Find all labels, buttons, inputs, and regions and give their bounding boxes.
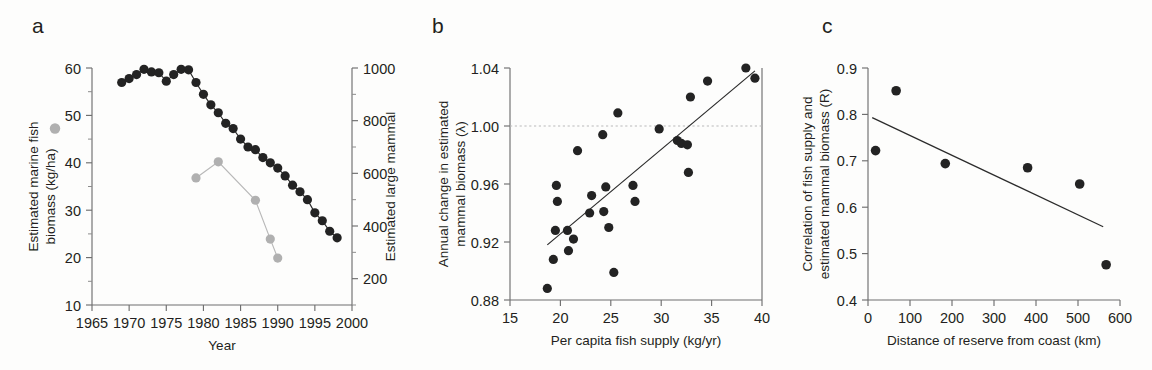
panel-a-chart: 1020304050602004006008001000196519701975… — [0, 0, 400, 370]
panel-b-chart: 0.880.920.961.001.04152025303540Per capi… — [400, 0, 790, 370]
panel-a-xtick-label: 1985 — [224, 315, 256, 331]
panel-a-data-point-large-mammal — [273, 163, 282, 172]
panel-a-xtick-label: 1980 — [187, 315, 219, 331]
panel-a-ytick-label-right: 1000 — [363, 61, 395, 77]
panel-a-data-point-marine-fish — [191, 173, 200, 182]
panel-b-xtick-label: 30 — [653, 310, 669, 326]
panel-a-xtick-label: 1965 — [76, 315, 108, 331]
panel-a-xtick-label: 1970 — [113, 315, 145, 331]
panel-c-xtick-label: 300 — [982, 310, 1006, 326]
panel-a-data-point-large-mammal — [333, 233, 342, 242]
panel-c-ytick-label: 0.5 — [837, 246, 857, 262]
panel-b-data-point — [564, 246, 573, 255]
panel-a-data-point-large-mammal — [310, 208, 319, 217]
panel-a-series-line-marine-fish — [196, 162, 278, 258]
panel-a-data-point-large-mammal — [266, 158, 275, 167]
panel-a-data-point-marine-fish — [266, 235, 275, 244]
panel-a-x-axis-title: Year — [208, 338, 236, 353]
panel-a: a 10203040506020040060080010001965197019… — [0, 0, 400, 370]
panel-b-data-point — [599, 207, 608, 216]
panel-c-xtick-label: 600 — [1108, 310, 1132, 326]
panel-b-data-point — [551, 226, 560, 235]
panel-a-ytick-label-right: 200 — [363, 271, 387, 287]
panel-c-xtick-label: 200 — [940, 310, 964, 326]
panel-a-data-point-large-mammal — [154, 68, 163, 77]
panel-a-data-point-marine-fish — [273, 253, 282, 262]
panel-b-data-point — [569, 235, 578, 244]
panel-c-y-axis-title-line1: Correlation of fish supply and — [800, 97, 815, 272]
panel-c-ytick-label: 0.7 — [837, 153, 857, 169]
panel-a-xtick-label: 1990 — [262, 315, 294, 331]
panel-c-data-point — [891, 86, 901, 96]
panel-a-data-point-large-mammal — [214, 108, 223, 117]
panel-c-ytick-label: 0.4 — [837, 293, 857, 309]
panel-c-data-point — [1023, 163, 1033, 173]
panel-b-xtick-label: 40 — [754, 310, 770, 326]
panel-b-regression-line — [547, 71, 755, 245]
panel-a-data-point-large-mammal — [162, 77, 171, 86]
panel-b-data-point — [686, 92, 695, 101]
panel-letter-b: b — [432, 14, 444, 38]
panel-b-data-point — [543, 284, 552, 293]
panel-a-data-point-large-mammal — [251, 145, 260, 154]
panel-b-xtick-label: 35 — [704, 310, 720, 326]
panel-b: b 0.880.920.961.001.04152025303540Per ca… — [400, 0, 790, 370]
panel-b-x-axis-title: Per capita fish supply (kg/yr) — [551, 333, 721, 348]
panel-a-data-point-marine-fish — [251, 196, 260, 205]
panel-b-data-point — [683, 140, 692, 149]
panel-a-ytick-label-left: 30 — [65, 203, 81, 219]
panel-b-data-point — [549, 255, 558, 264]
panel-a-data-point-large-mammal — [258, 153, 267, 162]
panel-c-x-axis-title: Distance of reserve from coast (km) — [887, 333, 1101, 348]
panel-b-y-axis-title-line1: Annual change in estimated — [436, 101, 451, 268]
panel-a-ytick-label-left: 10 — [65, 298, 81, 314]
panel-a-xtick-label: 1995 — [299, 315, 331, 331]
panel-c-ytick-label: 0.9 — [837, 61, 857, 77]
panel-b-data-point — [684, 168, 693, 177]
panel-c-xtick-label: 400 — [1024, 310, 1048, 326]
panel-b-ytick-label: 1.04 — [471, 61, 499, 77]
panel-c: c 0.40.50.60.70.80.90100200300400500600D… — [790, 0, 1152, 370]
panel-a-ytick-label-left: 50 — [65, 108, 81, 124]
panel-a-data-point-large-mammal — [199, 90, 208, 99]
panel-letter-c: c — [822, 14, 833, 38]
panel-c-data-point — [940, 159, 950, 169]
panel-c-xtick-label: 500 — [1066, 310, 1090, 326]
panel-b-ytick-label: 1.00 — [471, 119, 499, 135]
panel-b-data-point — [613, 108, 622, 117]
panel-b-xtick-label: 20 — [552, 310, 568, 326]
panel-b-data-point — [587, 191, 596, 200]
panel-a-ytick-label-left: 60 — [65, 61, 81, 77]
figure-root: a 10203040506020040060080010001965197019… — [0, 0, 1152, 370]
panel-letter-a: a — [32, 14, 44, 38]
panel-a-y-axis-title-left-line1: Estimated marine fish — [26, 122, 41, 252]
panel-a-ytick-label-left: 40 — [65, 155, 81, 171]
panel-a-data-point-large-mammal — [206, 100, 215, 109]
panel-a-y-axis-title-right-line1: Estimated large mammal — [383, 112, 398, 261]
panel-a-data-point-marine-fish — [214, 157, 223, 166]
panel-b-ytick-label: 0.92 — [471, 235, 499, 251]
panel-b-data-point — [601, 182, 610, 191]
panel-a-xtick-label: 1975 — [150, 315, 182, 331]
panel-b-xtick-label: 25 — [603, 310, 619, 326]
panel-c-data-point — [1075, 179, 1085, 189]
panel-a-ytick-label-left: 20 — [65, 250, 81, 266]
panel-a-data-point-large-mammal — [318, 216, 327, 225]
panel-a-data-point-large-mammal — [184, 65, 193, 74]
panel-a-data-point-large-mammal — [221, 119, 230, 128]
panel-b-data-point — [655, 124, 664, 133]
panel-a-data-point-large-mammal — [303, 195, 312, 204]
panel-a-data-point-large-mammal — [169, 70, 178, 79]
panel-b-data-point — [585, 208, 594, 217]
panel-a-data-point-large-mammal — [288, 181, 297, 190]
panel-c-data-point — [1101, 260, 1111, 270]
panel-c-data-point — [871, 146, 881, 156]
legend-marker-marine-fish-icon — [50, 123, 60, 133]
panel-a-data-point-large-mammal — [325, 227, 334, 236]
panel-b-data-point — [609, 268, 618, 277]
panel-b-data-point — [703, 76, 712, 85]
panel-b-y-axis-title-line2: mammal biomass (λ) — [453, 121, 468, 246]
panel-c-y-axis-title-line2: estimated mammal biomass (R) — [817, 89, 832, 280]
panel-c-regression-line — [872, 118, 1103, 227]
panel-b-xtick-label: 15 — [502, 310, 518, 326]
